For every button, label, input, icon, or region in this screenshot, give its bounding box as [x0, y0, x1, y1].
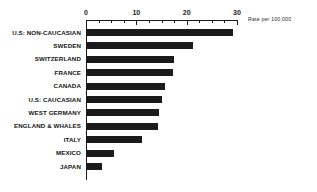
bar	[87, 29, 233, 36]
bar-row: FRANCE	[0, 66, 317, 79]
bar	[87, 42, 193, 49]
bar-row: ENGLAND & WHALES	[0, 120, 317, 133]
x-tick-minor	[124, 20, 125, 23]
category-label: SWEDEN	[53, 42, 81, 49]
bar-row: U.S: NON-CAUCASIAN	[0, 26, 317, 39]
bar	[87, 150, 114, 157]
category-label: FRANCE	[55, 69, 81, 76]
x-tick-major	[136, 20, 137, 25]
bar-row: MEXICO	[0, 147, 317, 160]
x-tick-major	[237, 20, 238, 25]
category-label: U.S: NON-CAUCASIAN	[12, 29, 81, 36]
x-tick-minor	[111, 20, 112, 23]
category-label: SWITZERLAND	[35, 55, 81, 62]
category-label: MEXICO	[56, 149, 81, 156]
bar-row: SWITZERLAND	[0, 53, 317, 66]
bar	[87, 163, 102, 170]
bar-row: WEST GERMANY	[0, 106, 317, 119]
bar-row: CANADA	[0, 80, 317, 93]
x-tick-label: 30	[233, 9, 241, 16]
x-axis-tick-labels: 0102030	[86, 9, 237, 19]
x-tick-minor	[162, 20, 163, 23]
bar-chart: Rate per 100,000 0102030 U.S: NON-CAUCAS…	[0, 0, 317, 192]
category-label: ITALY	[64, 136, 81, 143]
category-label: JAPAN	[60, 163, 81, 170]
x-tick-label: 20	[183, 9, 191, 16]
x-tick-minor	[149, 20, 150, 23]
x-tick-major	[187, 20, 188, 25]
x-axis	[86, 20, 238, 25]
x-tick-minor	[212, 20, 213, 23]
bar	[87, 56, 174, 63]
bar	[87, 69, 173, 76]
category-label: ENGLAND & WHALES	[14, 122, 81, 129]
bar	[87, 136, 142, 143]
bar	[87, 96, 162, 103]
category-label: CANADA	[54, 82, 81, 89]
category-label: WEST GERMANY	[29, 109, 81, 116]
x-tick-minor	[99, 20, 100, 23]
axis-annotation: Rate per 100,000	[248, 16, 291, 22]
x-tick-minor	[199, 20, 200, 23]
bar-row: SWEDEN	[0, 39, 317, 52]
x-tick-label: 0	[84, 9, 88, 16]
x-tick-minor	[224, 20, 225, 23]
category-label: U.S: CAUCASIAN	[28, 96, 81, 103]
bar-row: JAPAN	[0, 160, 317, 173]
bar	[87, 123, 158, 130]
bar	[87, 83, 165, 90]
x-tick-label: 10	[132, 9, 140, 16]
bar-row: U.S: CAUCASIAN	[0, 93, 317, 106]
x-tick-minor	[174, 20, 175, 23]
bar-row: ITALY	[0, 133, 317, 146]
bar	[87, 109, 159, 116]
